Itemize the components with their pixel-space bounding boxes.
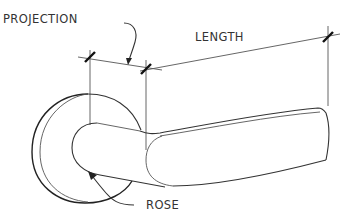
rose-label: ROSE <box>146 200 179 212</box>
lever-end <box>326 113 329 160</box>
rose-top-edge <box>88 94 141 130</box>
lever-neck-top <box>97 123 140 131</box>
projection-label: PROJECTION <box>3 14 78 26</box>
rose-outer-edge <box>32 94 132 203</box>
rose-leader <box>93 177 134 205</box>
length-label: LENGTH <box>195 32 244 44</box>
projection-dimension-line <box>78 57 162 70</box>
lever-handle-diagram: PROJECTION LENGTH ROSE <box>0 0 349 222</box>
lever-top-highlight <box>160 112 320 136</box>
lever-grip-curve <box>146 136 173 186</box>
projection-arrowhead <box>126 58 132 65</box>
rose-arrowhead <box>88 171 97 180</box>
diagram-drawing <box>0 0 349 222</box>
lever-bottom-edge <box>173 160 326 186</box>
projection-leader <box>124 23 136 60</box>
rose-inner-edge <box>40 94 88 202</box>
lever-neck <box>72 123 165 187</box>
lever-top-edge <box>140 108 326 134</box>
